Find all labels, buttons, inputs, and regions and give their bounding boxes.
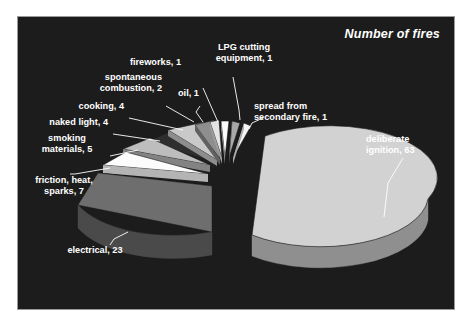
label-fireworks: fireworks, 1 [130, 57, 181, 68]
slice-fireworks [221, 121, 229, 158]
label-spread: spread from secondary fire, 1 [254, 101, 327, 122]
leader-oil [196, 106, 203, 122]
leader-naked-light [113, 134, 160, 141]
chart-figure: fireworks, 1 LPG cutting equipment, 1 oi… [0, 0, 472, 325]
label-smoking: smoking materials, 5 [28, 133, 106, 154]
leader-cooking [129, 118, 183, 130]
leader-lpg [233, 77, 240, 120]
label-spontaneous: spontaneous combustion, 2 [54, 72, 162, 93]
chart-title: Number of fires [345, 27, 440, 41]
leader-fireworks [203, 88, 218, 122]
leader-spontaneous [166, 106, 194, 122]
label-electrical: electrical, 23 [46, 245, 144, 256]
label-cooking: cooking, 4 [38, 101, 124, 112]
pie-chart-plot-area: fireworks, 1 LPG cutting equipment, 1 oi… [17, 16, 455, 310]
label-oil: oil, 1 [178, 88, 199, 99]
label-friction: friction, heat, sparks, 7 [20, 175, 108, 196]
label-deliberate: deliberate ignition, 63 [366, 134, 415, 155]
label-lpg: LPG cutting equipment, 1 [198, 42, 290, 63]
label-naked-light: naked light, 4 [26, 117, 108, 128]
